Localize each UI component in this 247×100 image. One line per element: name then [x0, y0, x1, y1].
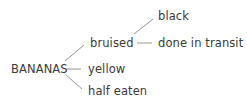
node-done-in-transit: done in transit [158, 36, 243, 50]
node-half-eaten: half eaten [88, 84, 147, 98]
node-yellow: yellow [88, 62, 125, 76]
edge-bananas-bruised [65, 45, 84, 61]
node-bruised: bruised [90, 36, 134, 50]
edge-bruised-black [134, 19, 153, 34]
edge-bananas-half-eaten [66, 75, 82, 89]
node-black: black [158, 9, 189, 23]
node-bananas: BANANAS [11, 62, 68, 76]
